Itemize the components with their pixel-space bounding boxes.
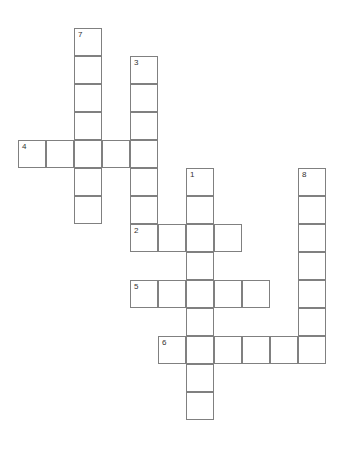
crossword-cell[interactable] — [270, 336, 298, 364]
crossword-cell[interactable] — [74, 140, 102, 168]
crossword-cell[interactable] — [74, 168, 102, 196]
crossword-cell[interactable] — [74, 196, 102, 224]
crossword-cell[interactable] — [130, 168, 158, 196]
crossword-cell[interactable]: 8 — [298, 168, 326, 196]
crossword-cell[interactable]: 5 — [130, 280, 158, 308]
cell-number-1: 1 — [190, 170, 194, 179]
crossword-cell[interactable] — [242, 336, 270, 364]
crossword-cell[interactable]: 3 — [130, 56, 158, 84]
cell-number-2: 2 — [134, 226, 138, 235]
crossword-cell[interactable] — [186, 196, 214, 224]
crossword-cell[interactable] — [298, 308, 326, 336]
crossword-cell[interactable] — [298, 336, 326, 364]
crossword-cell[interactable]: 1 — [186, 168, 214, 196]
crossword-cell[interactable] — [130, 140, 158, 168]
crossword-cell[interactable] — [186, 308, 214, 336]
crossword-cell[interactable] — [130, 84, 158, 112]
crossword-cell[interactable] — [74, 56, 102, 84]
crossword-cell[interactable] — [186, 364, 214, 392]
crossword-cell[interactable] — [214, 224, 242, 252]
crossword-cell[interactable] — [102, 140, 130, 168]
cell-number-3: 3 — [134, 58, 138, 67]
crossword-cell[interactable] — [158, 224, 186, 252]
crossword-cell[interactable] — [74, 84, 102, 112]
crossword-cell[interactable] — [186, 280, 214, 308]
crossword-cell[interactable] — [130, 196, 158, 224]
crossword-cell[interactable] — [214, 336, 242, 364]
cell-number-8: 8 — [302, 170, 306, 179]
crossword-cell[interactable] — [186, 336, 214, 364]
crossword-cell[interactable] — [74, 112, 102, 140]
crossword-cell[interactable] — [242, 280, 270, 308]
crossword-cell[interactable] — [130, 112, 158, 140]
crossword-cell[interactable] — [214, 280, 242, 308]
crossword-cell[interactable] — [158, 280, 186, 308]
crossword-cell[interactable] — [186, 224, 214, 252]
crossword-cell[interactable] — [46, 140, 74, 168]
crossword-cell[interactable] — [298, 224, 326, 252]
cell-number-4: 4 — [22, 142, 26, 151]
crossword-cell[interactable]: 7 — [74, 28, 102, 56]
crossword-cell[interactable] — [298, 196, 326, 224]
crossword-grid: 12345678 — [0, 0, 350, 454]
cell-number-7: 7 — [78, 30, 82, 39]
cell-number-6: 6 — [162, 338, 166, 347]
crossword-cell[interactable] — [298, 280, 326, 308]
crossword-cell[interactable]: 6 — [158, 336, 186, 364]
crossword-cell[interactable] — [298, 252, 326, 280]
crossword-cell[interactable]: 2 — [130, 224, 158, 252]
crossword-cell[interactable]: 4 — [18, 140, 46, 168]
crossword-cell[interactable] — [186, 252, 214, 280]
cell-number-5: 5 — [134, 282, 138, 291]
crossword-cell[interactable] — [186, 392, 214, 420]
